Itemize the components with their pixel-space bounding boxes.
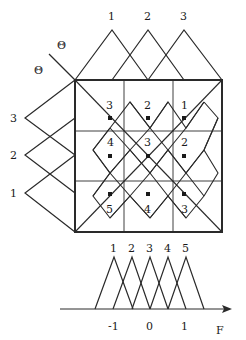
bottom-membership-functions — [95, 257, 204, 309]
top-label-1: 1 — [108, 10, 115, 23]
cell-r3c2: 4 — [144, 203, 151, 216]
left-label-1: 1 — [10, 187, 17, 200]
cell-r2c2: 3 — [144, 136, 151, 149]
top-label-2: 2 — [144, 10, 151, 23]
left-membership-functions — [25, 80, 75, 232]
top-membership-functions — [75, 30, 222, 80]
left-label-2: 2 — [10, 149, 17, 162]
cell-r3c3: 3 — [181, 203, 188, 216]
bottom-label-1: 1 — [110, 242, 117, 255]
cell-r3c1: 5 — [106, 203, 113, 216]
theta-axis-line — [49, 54, 75, 80]
bottom-label-3: 3 — [146, 242, 153, 255]
theta-label-left: Θ — [34, 64, 43, 77]
cell-r1c1: 3 — [106, 99, 113, 112]
tick-label-0: 0 — [146, 320, 153, 333]
bottom-label-4: 4 — [164, 242, 171, 255]
fuzzy-rule-diagram: Θ Θ 1 2 3 3 2 1 — [0, 0, 246, 340]
theta-label-top: Θ — [57, 39, 66, 52]
tick-label-neg1: -1 — [108, 320, 119, 333]
tick-label-1: 1 — [181, 320, 188, 333]
top-label-3: 3 — [180, 10, 187, 23]
cell-r2c3: 2 — [181, 136, 188, 149]
cell-r1c3: 1 — [181, 99, 188, 112]
cell-r2c1: 4 — [107, 136, 114, 149]
bottom-label-2: 2 — [128, 242, 135, 255]
left-label-3: 3 — [10, 112, 17, 125]
cell-r1c2: 2 — [144, 99, 151, 112]
bottom-label-5: 5 — [182, 242, 189, 255]
f-axis-label: F — [216, 324, 224, 337]
